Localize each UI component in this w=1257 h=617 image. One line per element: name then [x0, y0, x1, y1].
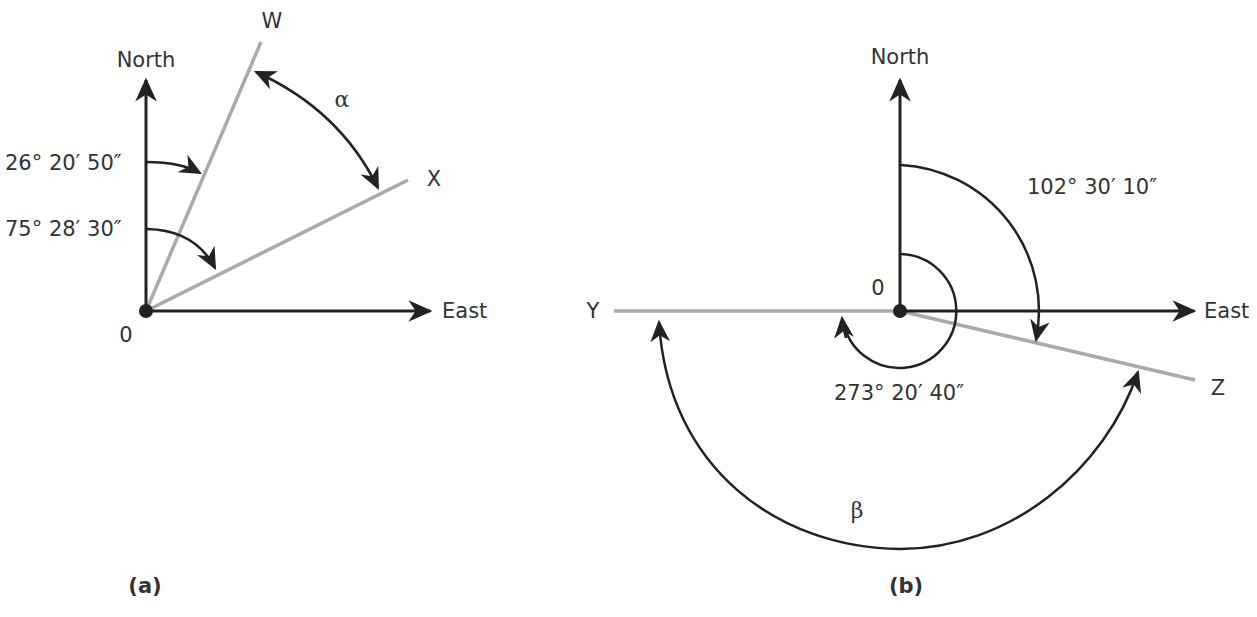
w-label: W: [262, 9, 283, 33]
angle-x-label: 75° 28′ 30″: [5, 217, 122, 241]
east-label-a: East: [442, 299, 487, 323]
angle-w-label: 26° 20′ 50″: [5, 151, 122, 175]
angle-arc-w: [147, 162, 200, 173]
north-label-a: North: [117, 48, 176, 72]
x-label: X: [427, 167, 441, 191]
origin-label-b: 0: [871, 276, 884, 300]
caption-a: (a): [128, 574, 161, 598]
north-label-b: North: [871, 45, 930, 69]
angle-arc-x: [147, 229, 215, 268]
beta-label: β: [851, 498, 864, 523]
alpha-arc: [256, 72, 378, 188]
figure-b: North East 0 Y Z 102° 30′ 10″ 273° 20′ 4…: [586, 45, 1250, 598]
y-label: Y: [586, 299, 600, 323]
figure-a: North East 0 W X 26° 20′ 50″ 75° 28′ 30″…: [5, 9, 487, 598]
east-label-b: East: [1204, 299, 1249, 323]
line-ow: [146, 42, 261, 311]
origin-point-a: [139, 304, 153, 318]
caption-b: (b): [889, 574, 923, 598]
origin-label-a: 0: [119, 323, 132, 347]
angle-arc-z: [901, 165, 1039, 340]
z-label: Z: [1211, 376, 1225, 400]
line-ox: [146, 180, 408, 311]
beta-arc: [659, 322, 1138, 549]
origin-point-b: [893, 304, 907, 318]
angle-y-label: 273° 20′ 40″: [834, 381, 964, 405]
bearing-diagram: North East 0 W X 26° 20′ 50″ 75° 28′ 30″…: [0, 0, 1257, 617]
alpha-label: α: [335, 87, 350, 112]
angle-z-label: 102° 30′ 10″: [1027, 175, 1157, 199]
